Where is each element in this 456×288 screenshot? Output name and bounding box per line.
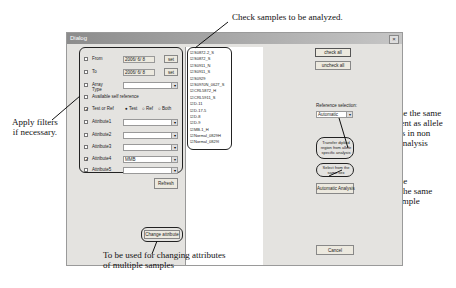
- callout-lines: [0, 0, 456, 288]
- annotation-change-attr: To be used for changing attributes of mu…: [103, 250, 226, 270]
